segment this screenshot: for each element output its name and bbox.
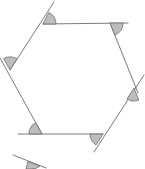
- exterior-angles: [4, 12, 139, 169]
- angle-marker-top-left: [43, 12, 56, 24]
- hexagon-diagram: [0, 0, 145, 169]
- edge-lower-right: [94, 75, 144, 152]
- angle-marker-bottom-right: [90, 134, 103, 145]
- angle-marker-bottom-left: [29, 123, 42, 134]
